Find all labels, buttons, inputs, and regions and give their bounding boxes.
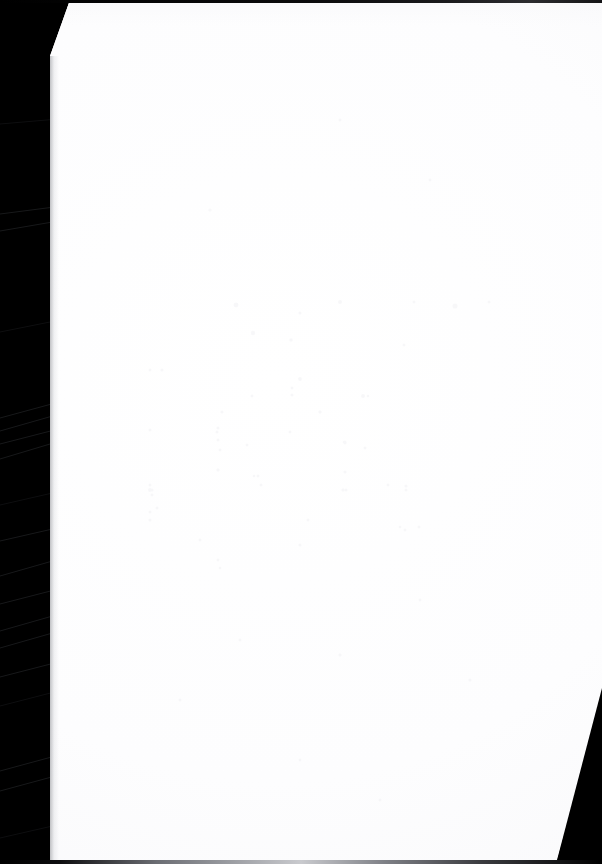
page-body-text bbox=[70, 60, 582, 840]
document-page bbox=[0, 0, 602, 864]
scanned-page-viewport bbox=[0, 0, 602, 864]
